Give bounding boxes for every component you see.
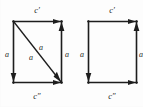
right-square-group: c′ c″ a a [80,5,143,101]
right-square-left-label: a [80,50,84,59]
left-square-left-arrowhead-down [11,73,17,82]
left-square-diagonal-upper-label: a [39,43,43,52]
left-square-bottom-label: c″ [33,91,41,101]
right-square-left-arrowhead-down [86,73,92,82]
right-square-top-label: c′ [109,5,115,15]
right-square-top-arrowhead-right [128,19,136,24]
right-square-bottom-label: c″ [108,91,116,101]
left-square-left-label: a [5,50,9,59]
left-square-right-arrowhead-up [59,22,65,31]
left-square-group: c′ c″ a a a a [5,5,69,101]
right-square-right-arrowhead-up [134,22,140,31]
left-square-diagonal-edge [14,22,61,82]
left-square-diagonal-lower-label: a [29,53,33,62]
right-square-bottom-arrowhead-right [128,80,136,85]
left-square-top-arrowhead-right [53,19,61,24]
left-square-right-label: a [65,50,69,59]
diagram-svg: c′ c″ a a a a c′ [0,0,143,107]
left-square-top-label: c′ [34,5,40,15]
right-square-right-label: a [139,50,143,59]
figure-canvas: c′ c″ a a a a c′ [0,0,143,107]
